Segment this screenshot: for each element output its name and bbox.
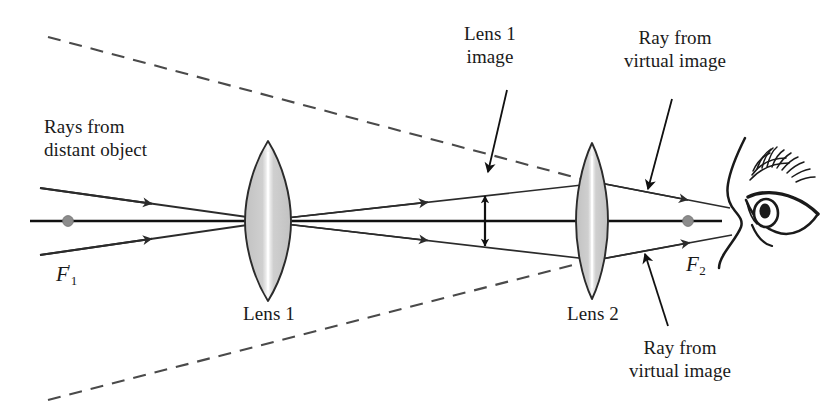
optical-axis bbox=[30, 216, 722, 227]
focal-point-1-dot bbox=[63, 216, 74, 227]
observer-eye bbox=[719, 138, 818, 268]
focal-point-1-prime: ' bbox=[68, 263, 71, 278]
outgoing-ray-upper-arrow bbox=[600, 183, 688, 200]
eye-pupil bbox=[759, 203, 770, 218]
focal-point-2-subscript: 2 bbox=[699, 263, 706, 278]
virtual-image-construction-lines bbox=[48, 37, 600, 400]
incoming-ray-lower-arrow bbox=[40, 239, 152, 255]
lens-2 bbox=[576, 143, 608, 299]
leader-ray-virtual-bottom bbox=[645, 254, 668, 326]
outgoing-ray-lower-arrow bbox=[596, 243, 690, 261]
focal-point-1-subscript: 1 bbox=[71, 273, 78, 288]
label-ray-from-virtual-image-top: Ray from virtual image bbox=[600, 26, 750, 72]
lens-1 bbox=[245, 141, 291, 301]
focal-point-1-letter: F bbox=[56, 262, 69, 286]
dashed-line-lower bbox=[48, 259, 596, 400]
leader-lens1-image bbox=[488, 90, 507, 172]
label-ray-from-virtual-image-bottom: Ray from virtual image bbox=[600, 336, 760, 382]
optics-ray-diagram-figure: Rays from distant object Lens 1 image Ra… bbox=[0, 0, 827, 417]
eye-face-profile bbox=[719, 138, 745, 268]
incoming-ray-upper-arrow bbox=[40, 188, 152, 204]
label-lens-2: Lens 2 bbox=[538, 302, 648, 325]
label-focal-point-2: F2 bbox=[686, 252, 706, 279]
eyebrow-icon bbox=[750, 147, 815, 182]
label-rays-from-distant-object: Rays from distant object bbox=[44, 115, 244, 161]
leader-ray-virtual-top bbox=[648, 99, 672, 189]
label-lens1-image: Lens 1 image bbox=[430, 22, 550, 68]
intermediate-ray-lower-arrow bbox=[268, 222, 428, 241]
intermediate-ray-upper-arrow bbox=[268, 202, 428, 220]
focal-point-2-letter: F bbox=[686, 252, 699, 276]
label-lens-1: Lens 1 bbox=[214, 302, 324, 325]
focal-point-2-dot bbox=[683, 216, 694, 227]
label-focal-point-1: F'1 bbox=[56, 262, 77, 289]
